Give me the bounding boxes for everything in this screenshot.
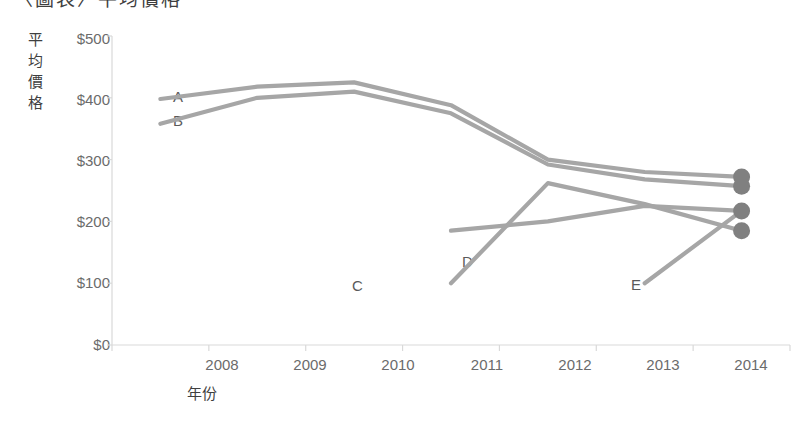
series-markers-layer: [733, 168, 750, 239]
series-endpoint-marker-c: [733, 222, 750, 239]
y-axis-ticks: [107, 36, 112, 345]
series-lines-layer: [160, 82, 741, 283]
series-line-e: [645, 211, 742, 283]
series-endpoint-marker-b: [733, 178, 750, 195]
series-line-c: [451, 183, 742, 283]
series-line-a: [160, 82, 741, 176]
axis-layer: [107, 36, 790, 351]
plot-area: [0, 0, 798, 432]
chart-container: 〈圖表〉平均價格 平 均 價 格 $500 $400 $300 $200 $10…: [0, 0, 798, 432]
series-endpoint-marker-d: [733, 202, 750, 219]
x-axis-ticks: [112, 345, 790, 351]
